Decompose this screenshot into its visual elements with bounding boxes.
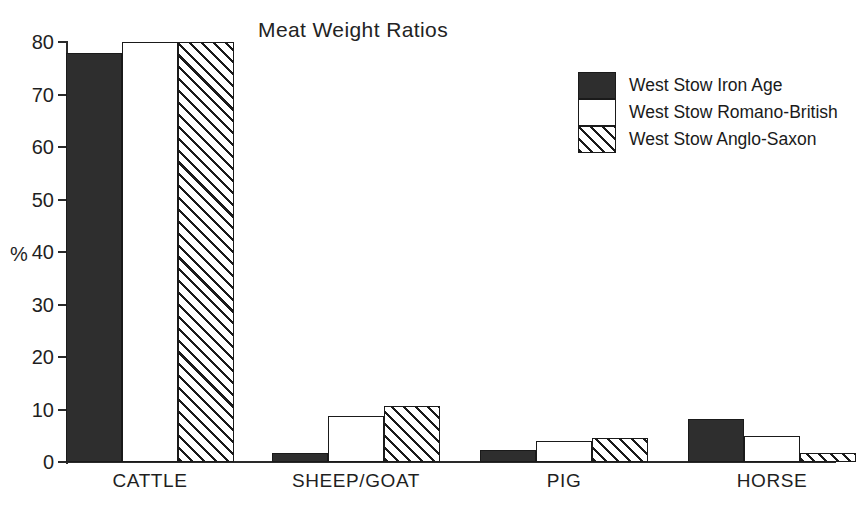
bar	[480, 450, 536, 462]
legend-swatch-solid-icon	[578, 72, 616, 99]
bar	[178, 42, 234, 462]
y-axis-tick-label: 50	[32, 188, 54, 211]
legend-label: West Stow Iron Age	[629, 75, 782, 96]
bar	[384, 406, 440, 462]
legend-swatch-open-icon	[578, 99, 616, 126]
bar	[66, 53, 122, 463]
legend-label: West Stow Anglo-Saxon	[629, 129, 816, 150]
bar	[800, 453, 856, 462]
bar	[744, 436, 800, 462]
x-axis-category-label: HORSE	[737, 470, 808, 492]
legend-label: West Stow Romano-British	[629, 102, 838, 123]
x-axis-category-label: SHEEP/GOAT	[292, 470, 420, 492]
y-axis-unit-label: %	[10, 243, 28, 266]
bar	[272, 453, 328, 462]
y-axis-tick-label: 30	[32, 293, 54, 316]
x-axis-category-label: CATTLE	[112, 470, 187, 492]
bar	[122, 42, 178, 462]
y-axis-tick-label: 20	[32, 346, 54, 369]
legend: West Stow Iron Age West Stow Romano-Brit…	[578, 72, 840, 153]
y-axis-tick-label: 60	[32, 136, 54, 159]
legend-swatch-hatch-icon	[578, 126, 616, 153]
bar	[536, 441, 592, 462]
bar	[688, 419, 744, 462]
legend-item: West Stow Anglo-Saxon	[578, 126, 840, 153]
y-axis-tick-label: 10	[32, 398, 54, 421]
bar	[328, 416, 384, 462]
legend-item: West Stow Romano-British	[578, 99, 840, 126]
y-axis-tick-label: 40	[32, 241, 54, 264]
bar	[592, 438, 648, 462]
y-axis-tick-label: 0	[43, 451, 54, 474]
legend-item: West Stow Iron Age	[578, 72, 840, 99]
x-axis-category-label: PIG	[547, 470, 582, 492]
chart-title: Meat Weight Ratios	[258, 18, 448, 42]
y-axis-tick-label: 70	[32, 83, 54, 106]
y-axis-tick-label: 80	[32, 31, 54, 54]
chart-container: Meat Weight Ratios % 01020304050607080 C…	[0, 0, 861, 526]
